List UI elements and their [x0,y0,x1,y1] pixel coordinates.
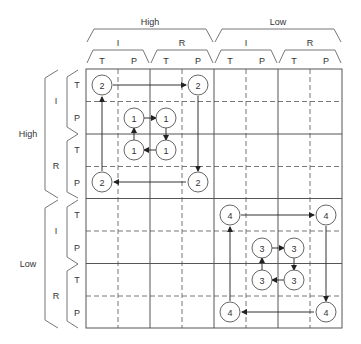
svg-text:3: 3 [259,244,264,254]
bracket [279,50,341,63]
col-l3: T [163,56,169,66]
node: 2 [188,172,208,192]
bracket-col-high [87,29,213,42]
col-l2-high-r: R [179,38,186,48]
node: 4 [220,205,240,225]
row-l2-low-i: I [55,226,58,236]
col-l3: P [131,56,137,66]
row-headers: High Low I R I R T P T P T P T P [19,80,81,318]
col-l3: P [195,56,201,66]
col-l3: T [99,56,105,66]
row-l2-high-r: R [53,161,60,171]
node: 4 [220,302,240,322]
svg-text:1: 1 [131,146,136,156]
row-l3: T [74,210,80,220]
bracket [67,134,78,198]
row-l2-low-r: R [53,291,60,301]
svg-text:2: 2 [99,81,104,91]
node: 3 [284,270,304,290]
col-l3: P [259,56,265,66]
node: 4 [316,302,336,322]
node: 1 [124,108,144,128]
bracket-row-low [45,200,58,328]
row-l1-low: Low [20,259,37,269]
row-l1-high: High [19,129,38,139]
row-l3: T [74,275,80,285]
svg-text:1: 1 [163,114,168,124]
row-l3: P [74,308,80,318]
grid [86,69,342,328]
svg-text:4: 4 [323,211,328,221]
column-brackets [87,29,341,63]
bracket-row-high [45,70,58,198]
svg-text:1: 1 [163,146,168,156]
svg-text:4: 4 [323,308,328,318]
svg-text:2: 2 [99,178,104,188]
bracket [67,264,78,328]
node: 1 [124,140,144,160]
node: 1 [156,140,176,160]
node: 3 [252,270,272,290]
node: 2 [188,75,208,95]
column-headers: High Low I R I R T P T P T P T P [99,17,329,66]
col-l2-low-r: R [307,38,314,48]
col-l2-high-i: I [117,38,120,48]
col-l3: T [291,56,297,66]
node: 3 [252,238,272,258]
node: 4 [316,205,336,225]
row-l3: T [74,145,80,155]
row-l3: P [74,178,80,188]
col-l3: P [323,56,329,66]
node: 2 [92,75,112,95]
col-l1-high: High [141,17,160,27]
svg-text:4: 4 [227,308,232,318]
row-l3: P [74,243,80,253]
svg-text:3: 3 [291,276,296,286]
transition-matrix-diagram: High Low I R I R T P T P T P T P High Lo… [0,0,361,344]
row-l3: T [74,80,80,90]
row-brackets [45,70,78,328]
node: 2 [92,172,112,192]
col-l2-low-i: I [245,38,248,48]
row-l2-high-i: I [55,96,58,106]
bracket [87,50,149,63]
node: 3 [284,238,304,258]
svg-text:2: 2 [195,81,200,91]
col-l3: T [227,56,233,66]
svg-text:4: 4 [227,211,232,221]
svg-text:3: 3 [291,244,296,254]
svg-text:1: 1 [131,114,136,124]
bracket-col-low [215,29,341,42]
svg-text:3: 3 [259,276,264,286]
col-l1-low: Low [270,17,287,27]
svg-text:2: 2 [195,178,200,188]
bracket [151,50,213,63]
row-l3: P [74,113,80,123]
node: 1 [156,108,176,128]
bracket [215,50,277,63]
